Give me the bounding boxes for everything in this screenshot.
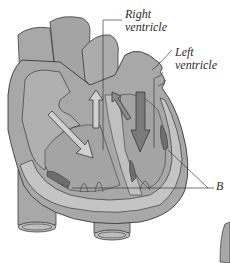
heart-illustration xyxy=(0,0,230,263)
label-left-ventricle: Left ventricle xyxy=(175,46,217,72)
label-b-text: B xyxy=(216,180,223,193)
label-right-ventricle: Right ventricle xyxy=(125,8,167,34)
label-right-ventricle-line2: ventricle xyxy=(125,21,167,34)
label-left-ventricle-line2: ventricle xyxy=(175,59,217,72)
label-b-cutoff: B xyxy=(216,180,223,193)
adjacent-figure-fragment xyxy=(220,222,230,263)
heart-diagram: Right ventricle Left ventricle B xyxy=(0,0,230,263)
